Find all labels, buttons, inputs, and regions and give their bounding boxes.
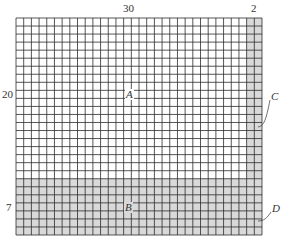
region-label-a: A	[125, 89, 134, 100]
region-label-b: B	[124, 202, 133, 213]
grid-area	[0, 0, 281, 242]
left-dimension-20: 20	[2, 89, 13, 100]
left-dimension-7: 7	[6, 202, 12, 213]
top-dimension-2: 2	[251, 3, 257, 14]
region-label-d: D	[272, 203, 280, 214]
region-label-c: C	[271, 91, 278, 102]
grid-diagram: 30 2 20 7 A B C D	[0, 0, 281, 242]
top-dimension-30: 30	[123, 3, 134, 14]
